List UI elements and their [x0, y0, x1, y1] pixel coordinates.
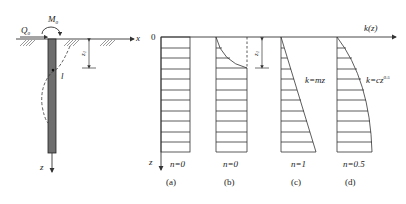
x-axis-label: x [135, 33, 140, 43]
ground-hatch-icon [20, 40, 115, 46]
n-label-a: n=0 [170, 159, 186, 169]
z-axis-label: z [39, 162, 44, 172]
panel-c [281, 37, 316, 152]
formula-d: k=cz0.5 [366, 75, 390, 85]
pile-length-label: l [61, 71, 64, 81]
moment-arrow-icon [42, 27, 60, 34]
pile-diagram: x z Q0 M0 l z1 [16, 14, 140, 172]
n-label-b: n=0 [223, 159, 239, 169]
caption-d: (d) [345, 177, 356, 187]
caption-c: (c) [291, 177, 301, 187]
depth-z1-label: z1 [79, 51, 87, 57]
panel-d [337, 37, 372, 152]
depth-z1-label-b: z1 [252, 51, 260, 57]
pile-subgrade-modulus-diagram: x z Q0 M0 l z1 k(z) 0 z [0, 0, 406, 204]
origin-label: 0 [151, 32, 156, 42]
caption-a: (a) [166, 177, 176, 187]
n-label-d: n=0.5 [343, 159, 365, 169]
n-label-c: n=1 [291, 159, 306, 169]
caption-b: (b) [224, 177, 235, 187]
modulus-distributions: k(z) 0 z z1 [148, 23, 396, 187]
pile [48, 39, 56, 153]
panel-a [161, 37, 190, 152]
panel-b [216, 37, 269, 152]
z-depth-axis-label: z [148, 157, 153, 167]
shear-force-label: Q0 [21, 25, 31, 36]
formula-c: k=mz [305, 75, 326, 85]
k-axis-label: k(z) [364, 23, 378, 33]
moment-label: M0 [47, 14, 59, 25]
